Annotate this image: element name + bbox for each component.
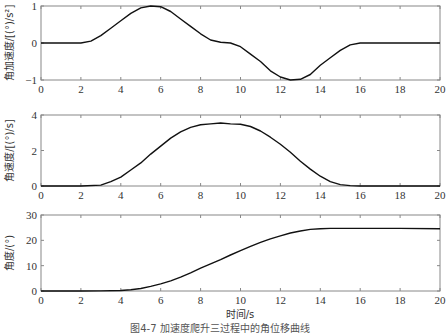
x-tick-label: 12	[275, 294, 286, 306]
x-tick-label: 0	[38, 294, 44, 306]
data-line	[41, 123, 440, 186]
x-tick-label: 8	[198, 294, 204, 306]
x-tick-label: 20	[435, 189, 447, 201]
x-tick-label: 4	[118, 189, 124, 201]
x-tick-label: 12	[275, 83, 286, 95]
y-tick-label: 2	[32, 145, 38, 157]
x-tick-label: 10	[235, 189, 247, 201]
x-tick-label: 10	[235, 83, 247, 95]
x-tick-label: 2	[78, 189, 84, 201]
axes-frame	[41, 215, 440, 291]
axes-frame	[41, 115, 440, 186]
x-tick-label: 14	[315, 189, 327, 201]
x-tick-label: 20	[435, 294, 447, 306]
y-axis-label: 角度/(°)	[3, 235, 15, 271]
y-tick-label: 4	[32, 109, 38, 121]
x-tick-label: 0	[38, 189, 44, 201]
y-tick-label: 1	[32, 0, 38, 12]
y-tick-label: 20	[26, 234, 38, 246]
x-tick-label: 18	[395, 294, 407, 306]
x-tick-label: 8	[198, 83, 204, 95]
y-axis-label: 角速度/[(°)/s]	[3, 119, 15, 182]
y-tick-label: 0	[32, 285, 38, 297]
data-line	[41, 6, 440, 80]
subplot-1: 02468101214161820−101角加速度/[(°)/s²]	[3, 0, 446, 95]
y-tick-label: 30	[26, 209, 38, 221]
data-line	[41, 228, 440, 291]
y-tick-label: −1	[25, 74, 37, 86]
x-tick-label: 14	[315, 294, 327, 306]
x-tick-label: 18	[395, 189, 407, 201]
x-tick-label: 2	[78, 83, 84, 95]
x-tick-label: 16	[355, 189, 367, 201]
x-tick-label: 14	[315, 83, 327, 95]
x-tick-label: 6	[158, 294, 164, 306]
y-tick-label: 0	[32, 37, 38, 49]
x-tick-label: 12	[275, 189, 286, 201]
x-tick-label: 16	[355, 83, 367, 95]
x-tick-label: 0	[38, 83, 44, 95]
subplot-2: 02468101214161820024角速度/[(°)/s]	[3, 109, 446, 201]
x-tick-label: 6	[158, 83, 164, 95]
x-tick-label: 6	[158, 189, 164, 201]
subplot-3: 024681012141618200102030角度/(°)	[3, 209, 446, 306]
x-tick-label: 4	[118, 294, 124, 306]
x-tick-label: 16	[355, 294, 367, 306]
y-tick-label: 10	[26, 260, 38, 272]
figure-canvas: 02468101214161820−101角加速度/[(°)/s²]024681…	[0, 0, 447, 334]
x-axis-label: 时间/s	[226, 308, 255, 320]
x-tick-label: 10	[235, 294, 247, 306]
y-tick-label: 0	[32, 180, 38, 192]
figure-caption: 图4-7 加速度爬升三过程中的角位移曲线	[130, 322, 310, 334]
x-tick-label: 8	[198, 189, 204, 201]
x-tick-label: 4	[118, 83, 124, 95]
x-tick-label: 20	[435, 83, 447, 95]
x-tick-label: 2	[78, 294, 84, 306]
x-tick-label: 18	[395, 83, 407, 95]
y-axis-label: 角加速度/[(°)/s²]	[3, 5, 15, 82]
